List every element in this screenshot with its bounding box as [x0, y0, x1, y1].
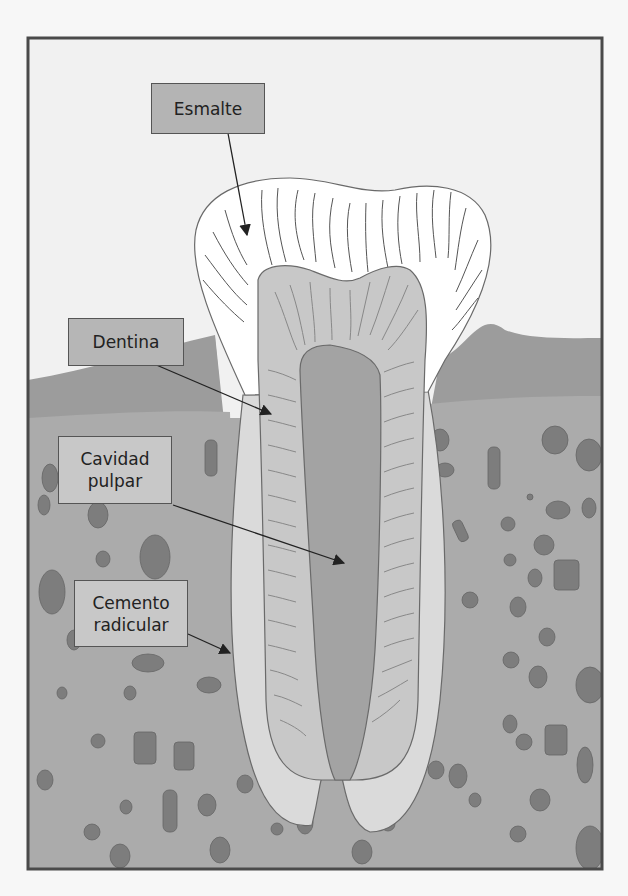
label-esmalte-text: Esmalte — [174, 98, 242, 120]
label-cemento-radicular-line1: Cemento — [92, 592, 169, 614]
label-dentina: Dentina — [68, 318, 184, 366]
label-cavidad-pulpar: Cavidad pulpar — [58, 436, 172, 504]
label-cemento-radicular-line2: radicular — [93, 614, 168, 636]
label-cavidad-pulpar-line2: pulpar — [88, 470, 143, 492]
label-cavidad-pulpar-line1: Cavidad — [80, 448, 149, 470]
label-dentina-text: Dentina — [93, 331, 160, 353]
label-cemento-radicular: Cemento radicular — [74, 580, 188, 647]
label-esmalte: Esmalte — [151, 83, 265, 134]
